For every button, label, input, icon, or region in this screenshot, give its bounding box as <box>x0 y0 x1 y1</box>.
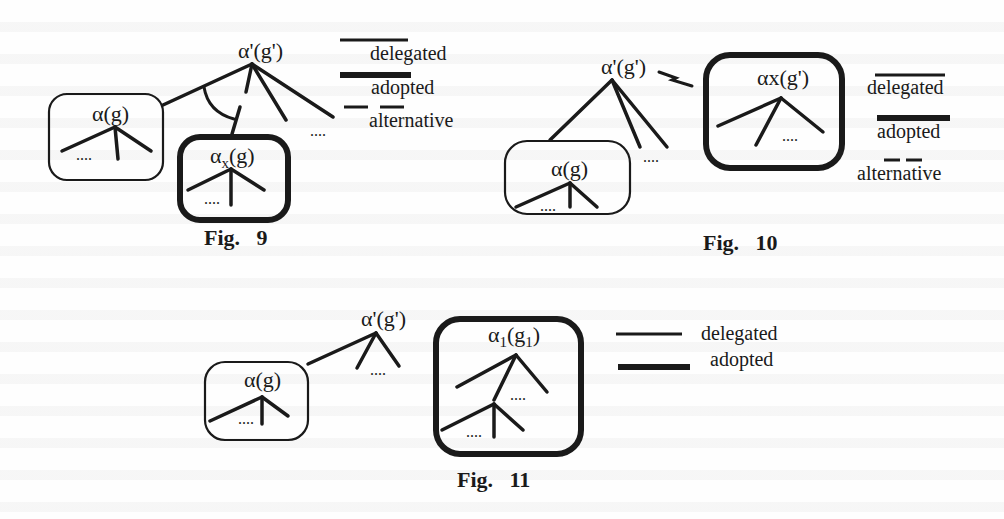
fig9-legend-delegated-label: delegated <box>370 42 447 65</box>
fig9-left-subtree-edge <box>115 127 151 151</box>
fig11-right-upper-ellipsis: .... <box>510 386 526 403</box>
fig9-left-subtree-edge <box>115 127 118 159</box>
fig11-root-label: α'(g') <box>361 306 406 331</box>
fig10-edge-child <box>612 80 667 147</box>
fig11-right-box-label: α1(g1) <box>488 322 540 350</box>
figures-canvas: α'(g') .... α(g) .... αx(g) .... <box>0 0 1004 519</box>
fig9-legend-alternative-label: alternative <box>369 109 454 131</box>
figure-10: α'(g') .... α(g) .... αx(g') .... d <box>505 54 950 255</box>
fig10-right-box-label: αx(g') <box>757 65 809 90</box>
fig10-legend-adopted-label: adopted <box>877 120 940 143</box>
fig10-edge-delegated <box>550 80 612 140</box>
fig10-left-ellipsis: .... <box>540 197 556 214</box>
fig11-left-subtree-edge <box>262 397 288 416</box>
fig10-right-ellipsis: .... <box>782 127 798 144</box>
fig10-caption: Fig. 10 <box>703 230 778 255</box>
fig9-edge-child <box>252 64 286 120</box>
fig9-left-ellipsis: .... <box>76 146 92 163</box>
figure-11: α'(g') .... α(g) .... α1(g1) .... .... <box>205 306 778 492</box>
fig11-root-ellipsis: .... <box>370 361 386 378</box>
fig9-alternative-arc <box>204 87 234 119</box>
fig9-edge-alt-lower <box>232 107 240 134</box>
document-page: α'(g') .... α(g) .... αx(g) .... <box>0 0 1004 519</box>
fig11-left-subtree-edge <box>210 397 262 421</box>
fig10-root-ellipsis: .... <box>643 148 659 165</box>
fig9-left-box-label: α(g) <box>92 101 129 126</box>
fig10-legend-alternative-label: alternative <box>857 162 942 184</box>
fig10-alternative-link-icon <box>659 72 692 86</box>
fig9-edge-child <box>252 64 333 117</box>
fig10-edge-child <box>612 80 640 147</box>
fig9-root-ellipsis: .... <box>310 122 326 139</box>
fig9-legend-adopted-label: adopted <box>371 76 434 99</box>
fig10-legend-delegated-label: delegated <box>867 76 944 99</box>
fig9-alt-subtree-edge <box>188 169 231 190</box>
fig11-left-box-label: α(g) <box>244 367 281 392</box>
fig11-right-lower-ellipsis: .... <box>466 423 482 440</box>
fig9-caption: Fig. 9 <box>204 225 268 250</box>
fig9-alt-ellipsis: .... <box>204 190 220 207</box>
fig11-right-lower-subtree-edge <box>494 404 523 430</box>
fig9-alt-subtree-edge <box>231 169 264 190</box>
fig10-root-label: α'(g') <box>601 54 646 79</box>
fig9-root-label: α'(g') <box>238 38 283 63</box>
fig11-legend-delegated-label: delegated <box>701 322 778 345</box>
fig10-left-subtree-edge <box>570 183 597 207</box>
fig11-left-ellipsis: .... <box>238 410 254 427</box>
fig10-left-box-label: α(g) <box>551 156 588 181</box>
figure-9: α'(g') .... α(g) .... αx(g) .... <box>49 38 454 250</box>
fig9-alt-box-label: αx(g) <box>210 143 255 171</box>
fig11-caption: Fig. 11 <box>457 467 530 492</box>
fig10-right-subtree-edge <box>718 98 781 126</box>
fig11-legend-adopted-label: adopted <box>710 348 773 371</box>
